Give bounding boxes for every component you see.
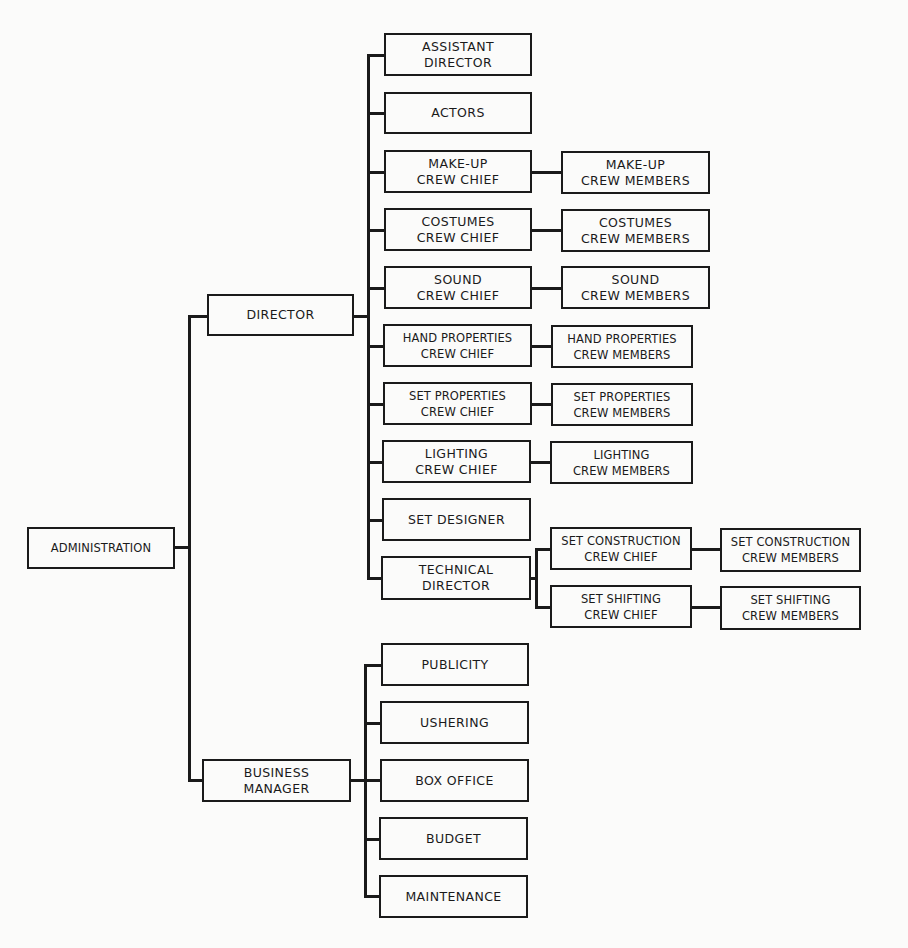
node-label: COSTUMES — [599, 215, 672, 231]
node-label: CREW MEMBERS — [742, 550, 839, 566]
node-label: SET CONSTRUCTION — [731, 534, 850, 550]
node-label: SOUND — [434, 272, 482, 288]
link-costumes-members — [531, 229, 562, 232]
node-label: CREW CHIEF — [421, 346, 494, 362]
connector-business-manager — [188, 779, 203, 782]
node-label: ACTORS — [431, 105, 485, 121]
node-label: HAND PROPERTIES — [567, 331, 676, 347]
theatre-organization-chart: ADMINISTRATION DIRECTOR BUSINESS MANAGER… — [0, 0, 908, 948]
node-label: LIGHTING — [593, 447, 649, 463]
node-set-designer: SET DESIGNER — [382, 498, 531, 541]
node-label: SET SHIFTING — [750, 592, 830, 608]
node-label: CREW MEMBERS — [581, 173, 690, 189]
trunk-technical-director — [535, 548, 538, 608]
branch-costumes — [367, 229, 385, 232]
node-budget: BUDGET — [379, 817, 528, 860]
node-business-manager: BUSINESS MANAGER — [202, 759, 351, 802]
node-set-construction-crew-members: SET CONSTRUCTION CREW MEMBERS — [720, 528, 861, 572]
node-label: BOX OFFICE — [415, 773, 493, 789]
node-costumes-crew-chief: COSTUMES CREW CHIEF — [384, 208, 532, 251]
node-maintenance: MAINTENANCE — [379, 875, 528, 918]
node-lighting-crew-chief: LIGHTING CREW CHIEF — [382, 440, 531, 483]
node-label: MANAGER — [243, 781, 309, 797]
node-hand-properties-crew-chief: HAND PROPERTIES CREW CHIEF — [383, 324, 532, 367]
node-label: LIGHTING — [425, 446, 488, 462]
node-label: PUBLICITY — [421, 657, 488, 673]
connector-director — [188, 315, 208, 318]
node-makeup-crew-chief: MAKE-UP CREW CHIEF — [384, 150, 532, 193]
link-sound-members — [531, 287, 562, 290]
trunk-director — [367, 54, 370, 579]
node-set-shifting-crew-members: SET SHIFTING CREW MEMBERS — [720, 586, 861, 630]
link-set-construction-members — [691, 548, 721, 551]
node-label: MAINTENANCE — [405, 889, 501, 905]
node-label: CREW MEMBERS — [581, 288, 690, 304]
node-label: CREW CHIEF — [584, 607, 657, 623]
branch-sound — [367, 287, 385, 290]
branch-assistant-director — [367, 54, 385, 57]
node-label: ASSISTANT — [422, 39, 494, 55]
node-label: CREW CHIEF — [417, 230, 500, 246]
node-set-shifting-crew-chief: SET SHIFTING CREW CHIEF — [550, 585, 692, 628]
node-label: SET PROPERTIES — [409, 388, 506, 404]
link-set-shifting-members — [691, 606, 721, 609]
node-label: CREW CHIEF — [417, 172, 500, 188]
node-label: SET SHIFTING — [581, 591, 661, 607]
node-ushering: USHERING — [380, 701, 529, 744]
node-box-office: BOX OFFICE — [380, 759, 529, 802]
node-costumes-crew-members: COSTUMES CREW MEMBERS — [561, 209, 710, 252]
node-set-properties-crew-chief: SET PROPERTIES CREW CHIEF — [383, 382, 532, 425]
node-label: CREW MEMBERS — [573, 347, 670, 363]
node-label: ADMINISTRATION — [51, 540, 151, 556]
node-hand-properties-crew-members: HAND PROPERTIES CREW MEMBERS — [551, 325, 693, 368]
node-label: BUDGET — [426, 831, 481, 847]
node-actors: ACTORS — [384, 92, 532, 134]
node-label: CREW MEMBERS — [573, 463, 670, 479]
node-label: COSTUMES — [421, 214, 494, 230]
node-label: SET CONSTRUCTION — [561, 533, 680, 549]
branch-ushering — [364, 722, 381, 725]
node-makeup-crew-members: MAKE-UP CREW MEMBERS — [561, 151, 710, 194]
node-label: SOUND — [612, 272, 660, 288]
node-label: CREW CHIEF — [417, 288, 500, 304]
node-label: CREW MEMBERS — [742, 608, 839, 624]
trunk-admin — [188, 315, 191, 782]
node-label: CREW CHIEF — [584, 549, 657, 565]
node-sound-crew-members: SOUND CREW MEMBERS — [561, 266, 710, 309]
branch-box-office — [364, 779, 381, 782]
branch-actors — [367, 112, 385, 115]
node-label: DIRECTOR — [424, 55, 492, 71]
node-lighting-crew-members: LIGHTING CREW MEMBERS — [550, 441, 693, 484]
node-label: CREW MEMBERS — [573, 405, 670, 421]
node-set-construction-crew-chief: SET CONSTRUCTION CREW CHIEF — [550, 527, 692, 570]
node-label: SET DESIGNER — [408, 512, 505, 528]
node-set-properties-crew-members: SET PROPERTIES CREW MEMBERS — [551, 383, 693, 426]
node-label: BUSINESS — [244, 765, 310, 781]
node-assistant-director: ASSISTANT DIRECTOR — [384, 33, 532, 76]
node-technical-director: TECHNICAL DIRECTOR — [381, 556, 531, 600]
node-label: HAND PROPERTIES — [403, 330, 512, 346]
link-makeup-members — [531, 171, 562, 174]
node-label: MAKE-UP — [428, 156, 487, 172]
node-label: CREW MEMBERS — [581, 231, 690, 247]
branch-publicity — [364, 664, 381, 667]
node-sound-crew-chief: SOUND CREW CHIEF — [384, 266, 532, 309]
node-label: CREW CHIEF — [421, 404, 494, 420]
branch-makeup — [367, 171, 385, 174]
node-director: DIRECTOR — [207, 294, 354, 336]
node-publicity: PUBLICITY — [381, 643, 529, 686]
node-label: DIRECTOR — [247, 307, 315, 323]
node-label: MAKE-UP — [606, 157, 665, 173]
node-label: TECHNICAL — [419, 562, 494, 578]
node-label: USHERING — [420, 715, 489, 731]
node-label: DIRECTOR — [422, 578, 490, 594]
node-administration: ADMINISTRATION — [27, 527, 175, 569]
node-label: CREW CHIEF — [415, 462, 498, 478]
node-label: SET PROPERTIES — [574, 389, 671, 405]
